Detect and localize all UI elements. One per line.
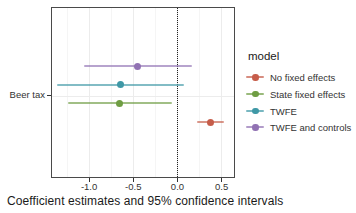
x-tick-label: 0.5 bbox=[205, 181, 239, 192]
x-gridline-major bbox=[89, 8, 90, 177]
point-estimate-state-fixed-effects bbox=[116, 100, 123, 107]
legend-item-no-fixed-effects: No fixed effects bbox=[246, 69, 356, 85]
y-tick-mark bbox=[47, 95, 51, 96]
legend-item-label: No fixed effects bbox=[270, 72, 335, 83]
x-gridline-minor bbox=[155, 8, 156, 177]
chart-panel bbox=[51, 7, 235, 178]
legend-item-twfe-and-controls: TWFE and controls bbox=[246, 119, 356, 135]
x-gridline-major bbox=[133, 8, 134, 177]
x-tick-label: -0.5 bbox=[116, 181, 150, 192]
legend-title: model bbox=[248, 50, 279, 62]
x-gridline-minor bbox=[67, 8, 68, 177]
x-gridline-minor bbox=[111, 8, 112, 177]
point-estimate-twfe bbox=[117, 81, 124, 88]
beer-tax-category-label: Beer tax bbox=[0, 89, 45, 100]
zero-reference-line bbox=[177, 8, 178, 177]
legend-key-dot-icon bbox=[252, 124, 259, 131]
legend-item-label: State fixed effects bbox=[270, 89, 345, 100]
legend-item-twfe: TWFE bbox=[246, 103, 356, 119]
legend-item-state-fixed-effects: State fixed effects bbox=[246, 86, 356, 102]
x-gridline-major bbox=[221, 8, 222, 177]
point-estimate-twfe-and-controls bbox=[134, 63, 141, 70]
legend-item-label: TWFE bbox=[270, 106, 297, 117]
axis-caption: Coefficient estimates and 95% confidence… bbox=[7, 194, 283, 208]
x-tick-label: -1.0 bbox=[72, 181, 106, 192]
legend-key-dot-icon bbox=[252, 74, 259, 81]
point-estimate-no-fixed-effects bbox=[207, 119, 214, 126]
legend-item-label: TWFE and controls bbox=[270, 122, 351, 133]
x-gridline-minor bbox=[199, 8, 200, 177]
x-tick-label: 0.0 bbox=[160, 181, 194, 192]
y-gridline-category bbox=[52, 96, 234, 97]
coefficient-plot-figure: Beer tax -1.0-0.50.00.5 Coefficient esti… bbox=[0, 0, 356, 213]
legend-key-dot-icon bbox=[252, 108, 259, 115]
legend-key-dot-icon bbox=[252, 91, 259, 98]
